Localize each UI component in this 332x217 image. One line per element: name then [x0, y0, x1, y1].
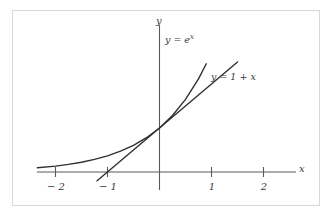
curve-label-line-base: y = 1 + x	[211, 71, 256, 82]
x-tick-label--2: − 2	[44, 182, 68, 192]
y-axis-label: y	[156, 16, 162, 26]
x-tick-label-1: 1	[205, 182, 219, 192]
curve-label-exponential-base: y = e	[165, 34, 190, 45]
x-axis-label: x	[299, 164, 305, 174]
curve-label-exponential: y = ex	[165, 34, 194, 45]
curve-label-line: y = 1 + x	[211, 72, 256, 82]
curve-label-exponential-exponent: x	[190, 33, 194, 41]
figure-root: y x − 2 − 1 1 2 y = ex y = 1 + x	[0, 0, 332, 217]
curve-exponential	[37, 64, 206, 168]
x-tick-label--1: − 1	[96, 182, 120, 192]
x-tick-label-2: 2	[257, 182, 271, 192]
